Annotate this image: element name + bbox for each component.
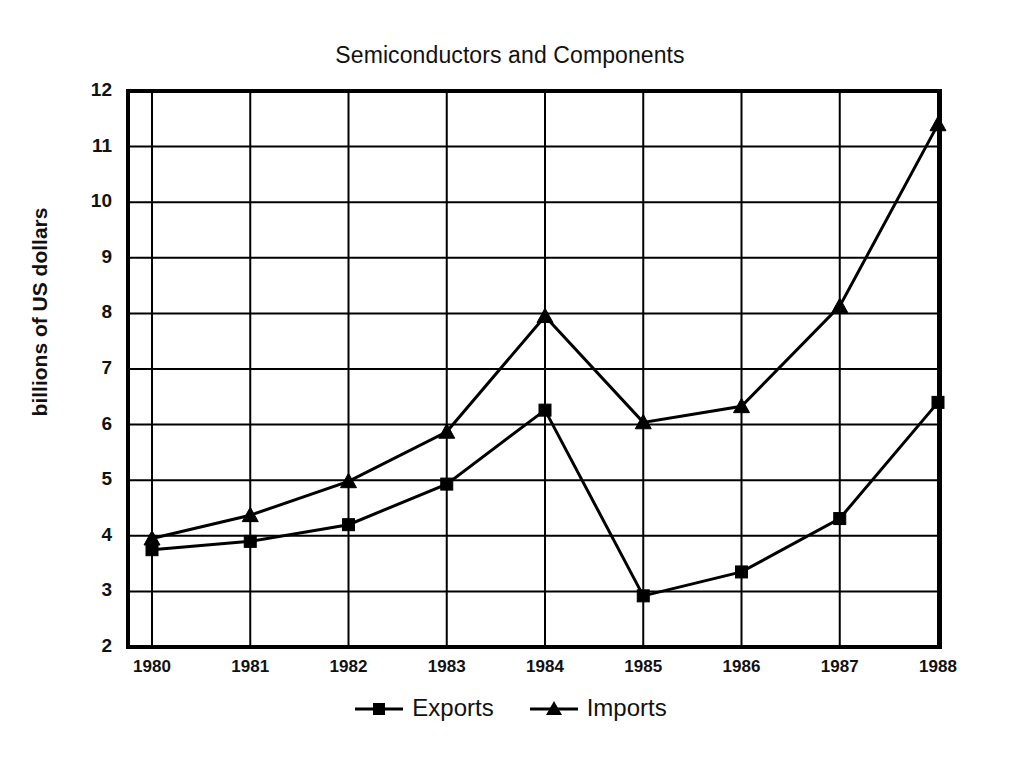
legend-item-exports[interactable]: Exports: [353, 694, 493, 722]
x-axis-tick-label: 1983: [407, 657, 487, 677]
data-point-exports: [539, 404, 551, 416]
legend-item-imports[interactable]: Imports: [528, 694, 667, 722]
data-point-exports: [834, 513, 846, 525]
x-axis-tick-label: 1987: [800, 657, 880, 677]
data-point-exports: [244, 535, 256, 547]
y-axis-tick-label: 4: [72, 524, 112, 546]
y-axis-tick-label: 6: [72, 413, 112, 435]
data-point-imports: [832, 298, 848, 312]
data-point-exports: [736, 566, 748, 578]
y-axis-tick-label: 3: [72, 579, 112, 601]
legend-label: Imports: [587, 694, 667, 722]
data-point-exports: [146, 544, 158, 556]
data-point-exports: [441, 478, 453, 490]
x-axis-tick-label: 1981: [210, 657, 290, 677]
legend-marker-square-icon: [353, 697, 405, 719]
data-point-exports: [343, 519, 355, 531]
x-axis-tick-label: 1988: [898, 657, 978, 677]
x-axis-tick-label: 1984: [505, 657, 585, 677]
data-point-imports: [930, 116, 946, 130]
chart-legend: ExportsImports: [0, 694, 1020, 722]
y-axis-tick-label: 12: [72, 79, 112, 101]
x-axis-tick-label: 1982: [309, 657, 389, 677]
y-axis-tick-label: 7: [72, 357, 112, 379]
data-point-exports: [932, 396, 944, 408]
x-axis-tick-label: 1985: [603, 657, 683, 677]
x-axis-tick-label: 1986: [702, 657, 782, 677]
grid-lines: [128, 91, 940, 647]
y-axis-tick-label: 11: [72, 135, 112, 157]
y-axis-tick-label: 2: [72, 635, 112, 657]
y-axis-tick-label: 5: [72, 468, 112, 490]
data-point-imports: [537, 308, 553, 322]
legend-label: Exports: [412, 694, 493, 722]
y-axis-tick-label: 9: [72, 246, 112, 268]
y-axis-tick-label: 8: [72, 301, 112, 323]
x-axis-tick-label: 1980: [112, 657, 192, 677]
legend-marker-triangle-icon: [528, 697, 580, 719]
chart-figure: Semiconductors and Components billions o…: [0, 0, 1020, 780]
y-axis-tick-label: 10: [72, 190, 112, 212]
data-point-exports: [637, 590, 649, 602]
